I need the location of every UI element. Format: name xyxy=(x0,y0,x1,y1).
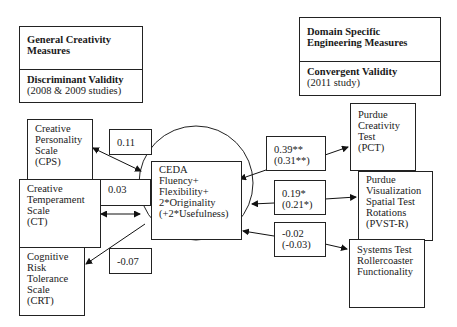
correlation-cps: 0.11 xyxy=(109,129,152,155)
legend-validity: Discriminant Validity xyxy=(27,74,124,85)
measure-pct: Purdue Creativity Test (PCT) xyxy=(350,103,416,171)
correlation-ct: 0.03 xyxy=(100,179,151,206)
measure-crt: Cognitive Risk Tolerance Scale (CRT) xyxy=(19,247,85,316)
measure-ct: Creative Temperament Scale (CT) xyxy=(19,179,101,248)
correlation-pvst: 0.19* (0.21*) xyxy=(274,180,326,215)
legend-divider xyxy=(300,61,440,62)
measure-cps: Creative Personality Scale (CPS) xyxy=(27,119,93,180)
legend-validity: Convergent Validity xyxy=(307,66,397,77)
legend-divider xyxy=(20,69,142,70)
legend-general-creativity: General Creativity Measures Discriminant… xyxy=(19,26,143,103)
legend-note: (2011 study) xyxy=(307,77,360,88)
correlation-crt: -0.07 xyxy=(109,248,152,274)
correlation-pct: 0.39** (0.31**) xyxy=(266,136,326,171)
legend-note: (2008 & 2009 studies) xyxy=(27,85,121,96)
legend-title: Domain Specific Engineering Measures xyxy=(307,26,407,48)
legend-domain-specific: Domain Specific Engineering Measures Con… xyxy=(299,17,441,96)
ceda-box: CEDA Fluency+ Flexibility+ 2*Originality… xyxy=(151,161,242,240)
measure-pvst-r: Purdue Visualization Spatial Test Rotati… xyxy=(358,171,433,241)
correlation-systems: -0.02 (-0.03) xyxy=(274,222,326,257)
legend-title: General Creativity Measures xyxy=(27,34,111,56)
measure-systems-test: Systems Test Rollercoaster Functionality xyxy=(349,239,425,308)
